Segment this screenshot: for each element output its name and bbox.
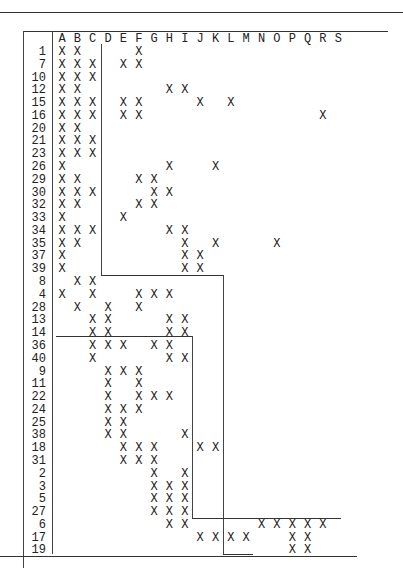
matrix-mark: X (179, 429, 191, 441)
column-header-g: G (148, 33, 160, 45)
matrix-mark: X (148, 481, 160, 493)
row-label: 8 (18, 276, 46, 288)
row-label: 34 (18, 225, 46, 237)
matrix-mark: X (56, 212, 68, 224)
matrix-mark: X (56, 199, 68, 211)
matrix-mark: X (87, 72, 99, 84)
matrix-mark: X (71, 59, 83, 71)
matrix-mark: X (179, 519, 191, 531)
matrix-mark: X (163, 340, 175, 352)
column-header-f: F (133, 33, 145, 45)
matrix-mark: X (148, 174, 160, 186)
matrix-mark: X (87, 110, 99, 122)
matrix-mark: X (148, 187, 160, 199)
row-label: 16 (18, 110, 46, 122)
matrix-mark: X (133, 199, 145, 211)
matrix-mark: X (56, 59, 68, 71)
matrix-mark: X (163, 506, 175, 518)
matrix-mark: X (133, 289, 145, 301)
row-label: 23 (18, 148, 46, 160)
page-top-rule (0, 12, 403, 13)
matrix-mark: X (71, 123, 83, 135)
matrix-mark: X (302, 532, 314, 544)
matrix-mark: X (71, 225, 83, 237)
matrix-mark: X (87, 327, 99, 339)
matrix-mark: X (56, 135, 68, 147)
matrix-mark: X (148, 506, 160, 518)
matrix-mark: X (117, 59, 129, 71)
matrix-mark: X (117, 340, 129, 352)
row-label: 30 (18, 187, 46, 199)
matrix-mark: X (210, 238, 222, 250)
matrix-mark: X (225, 532, 237, 544)
matrix-mark: X (179, 506, 191, 518)
matrix-mark: X (133, 59, 145, 71)
matrix-mark: X (87, 135, 99, 147)
matrix-mark: X (133, 110, 145, 122)
column-header-m: M (240, 33, 252, 45)
row-label: 6 (18, 519, 46, 531)
block-b-bottom-edge (223, 554, 253, 555)
matrix-mark: X (225, 97, 237, 109)
matrix-mark: X (148, 199, 160, 211)
row-label: 4 (18, 289, 46, 301)
row-label: 31 (18, 455, 46, 467)
column-header-e: E (117, 33, 129, 45)
matrix-mark: X (117, 429, 129, 441)
matrix-mark: X (256, 519, 268, 531)
matrix-mark: X (102, 366, 114, 378)
column-header-i: I (179, 33, 191, 45)
row-label: 19 (18, 544, 46, 556)
row-label: 27 (18, 506, 46, 518)
matrix-mark: X (117, 97, 129, 109)
matrix-mark: X (210, 532, 222, 544)
matrix-mark: X (56, 84, 68, 96)
matrix-mark: X (163, 314, 175, 326)
matrix-mark: X (117, 110, 129, 122)
column-header-k: K (210, 33, 222, 45)
matrix-mark: X (102, 327, 114, 339)
row-label: 18 (18, 442, 46, 454)
matrix-mark: X (87, 340, 99, 352)
row-label: 12 (18, 84, 46, 96)
matrix-mark: X (71, 238, 83, 250)
matrix-mark: X (87, 148, 99, 160)
row-label: 25 (18, 417, 46, 429)
row-label: 21 (18, 135, 46, 147)
matrix-mark: X (148, 442, 160, 454)
matrix-mark: X (71, 135, 83, 147)
matrix-mark: X (71, 72, 83, 84)
column-header-n: N (256, 33, 268, 45)
matrix-mark: X (179, 263, 191, 275)
matrix-mark: X (133, 302, 145, 314)
matrix-mark: X (102, 302, 114, 314)
row-label: 13 (18, 314, 46, 326)
matrix-mark: X (102, 404, 114, 416)
row-label: 28 (18, 302, 46, 314)
row-label: 36 (18, 340, 46, 352)
matrix-mark: X (102, 314, 114, 326)
matrix-mark: X (148, 493, 160, 505)
matrix-mark: X (194, 97, 206, 109)
matrix-mark: X (302, 544, 314, 556)
matrix-mark: X (56, 250, 68, 262)
matrix-mark: X (102, 340, 114, 352)
row-label: 33 (18, 212, 46, 224)
row-label: 17 (18, 532, 46, 544)
row-label: 40 (18, 353, 46, 365)
matrix-mark: X (102, 417, 114, 429)
matrix-mark: X (179, 84, 191, 96)
matrix-mark: X (163, 353, 175, 365)
row-label: 39 (18, 263, 46, 275)
matrix-mark: X (271, 519, 283, 531)
matrix-mark: X (102, 391, 114, 403)
matrix-mark: X (87, 59, 99, 71)
column-header-p: P (286, 33, 298, 45)
row-label: 32 (18, 199, 46, 211)
row-label: 9 (18, 366, 46, 378)
column-header-d: D (102, 33, 114, 45)
matrix-mark: X (71, 276, 83, 288)
matrix-mark: X (133, 97, 145, 109)
matrix-mark: X (317, 519, 329, 531)
matrix-mark: X (117, 417, 129, 429)
